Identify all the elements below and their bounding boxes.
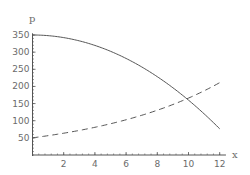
x-tick-label: 12 (214, 159, 225, 169)
y-axis-label: p (29, 13, 35, 24)
demand-curve (33, 35, 220, 129)
x-tick-label: 6 (123, 159, 129, 169)
y-tick-label: 100 (12, 116, 29, 126)
chart: 2468101250100150200250300350 p x (0, 0, 250, 175)
x-tick-label: 8 (154, 159, 160, 169)
x-tick-label: 2 (61, 159, 67, 169)
y-tick-label: 350 (12, 30, 29, 40)
y-tick-label: 50 (18, 133, 30, 143)
axes: 2468101250100150200250300350 (12, 30, 226, 169)
y-tick-label: 150 (12, 99, 29, 109)
x-tick-label: 10 (183, 159, 195, 169)
curves (33, 35, 220, 138)
supply-curve (33, 83, 220, 138)
y-tick-label: 300 (12, 47, 29, 57)
y-tick-label: 250 (12, 64, 29, 74)
x-tick-label: 4 (92, 159, 98, 169)
x-axis-label: x (232, 149, 238, 160)
y-tick-label: 200 (12, 81, 29, 91)
